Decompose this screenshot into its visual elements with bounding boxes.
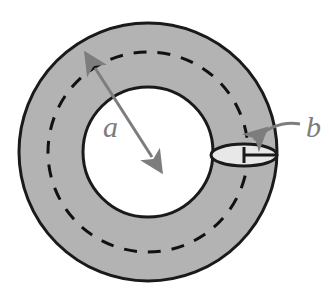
major-radius-label: a: [103, 110, 118, 143]
torus-diagram-canvas: a b: [0, 0, 329, 307]
torus-diagram-figure: a b: [0, 0, 329, 307]
minor-radius-label: b: [306, 110, 321, 143]
